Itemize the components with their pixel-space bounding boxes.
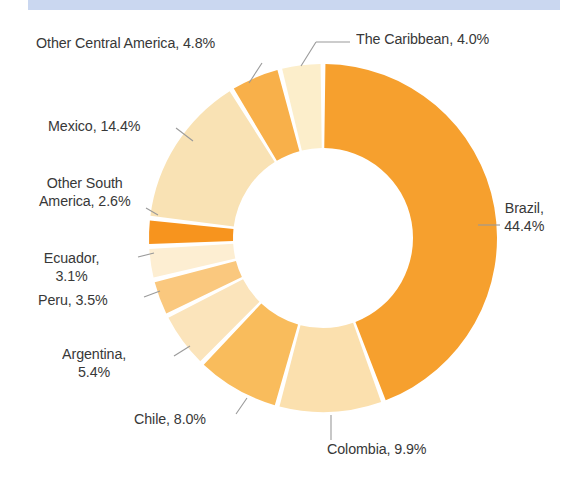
slice-label-ecuador: Ecuador, 3.1% (44, 249, 100, 284)
leader-line-chile (236, 398, 247, 414)
donut-chart: Other Central America, 4.8% The Caribbea… (0, 0, 581, 483)
slice-label-chile: Chile, 8.0% (134, 410, 206, 428)
slice-label-other-central-america: Other Central America, 4.8% (36, 34, 215, 52)
leader-line-peru (144, 291, 160, 297)
slice-label-the-caribbean: The Caribbean, 4.0% (356, 30, 489, 48)
slice-label-colombia: Colombia, 9.9% (327, 440, 426, 458)
slice-label-argentina: Argentina, 5.4% (62, 345, 126, 380)
slice-label-peru: Peru, 3.5% (38, 291, 108, 309)
slice-label-other-south-america: Other South America, 2.6% (39, 174, 131, 209)
leader-line-argentina (174, 346, 190, 356)
donut-chart-svg (0, 0, 581, 483)
donut-slice-group (149, 64, 497, 412)
slice-label-mexico: Mexico, 14.4% (48, 117, 140, 135)
slice-label-brazil: Brazil, 44.4% (504, 199, 544, 234)
leader-line-the-caribbean (301, 42, 316, 66)
